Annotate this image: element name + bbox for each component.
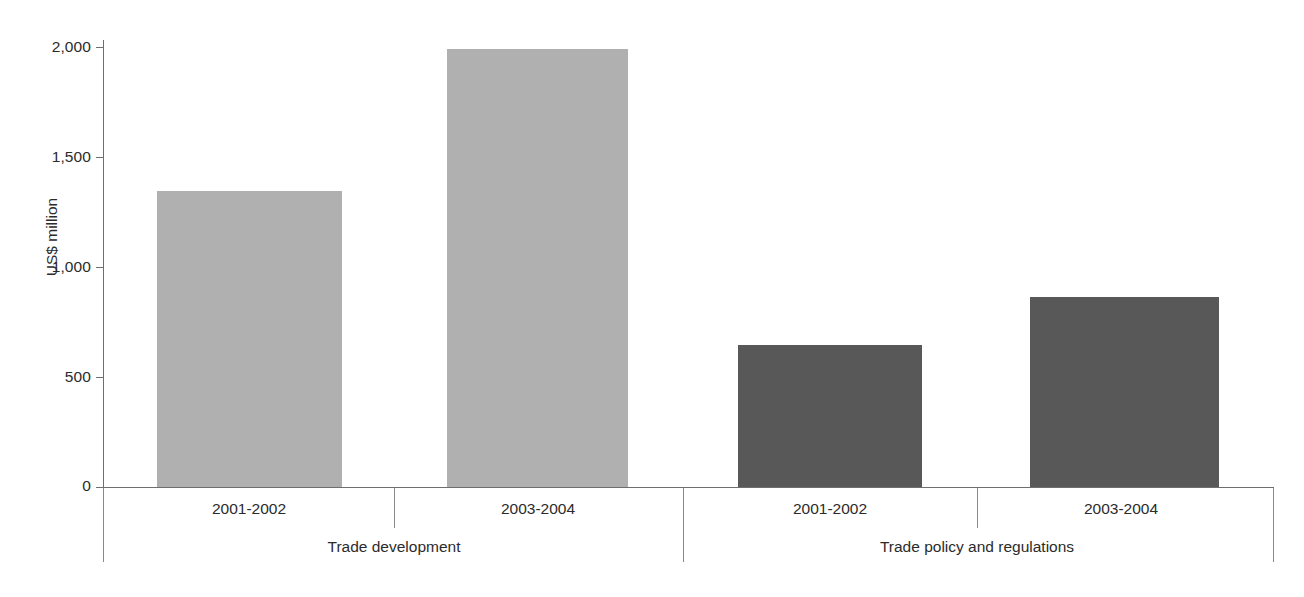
bar-trade-development-2003-2004 — [447, 49, 628, 487]
period-label-trade-development-2003-2004: 2003-2004 — [501, 500, 575, 518]
y-tick-label-0: 0 — [82, 477, 91, 495]
group-label-trade-development: Trade development — [328, 538, 461, 556]
y-tick-label-1500: 1,500 — [52, 148, 91, 166]
bar-chart: US$ million 2,000 1,500 1,000 500 0 2001… — [0, 0, 1304, 597]
x-tick-axis-start — [103, 488, 104, 562]
x-tick-divider-1 — [394, 488, 395, 528]
group-label-trade-policy: Trade policy and regulations — [880, 538, 1074, 556]
bar-trade-policy-2003-2004 — [1030, 297, 1219, 487]
y-tick-mark-1000 — [96, 267, 103, 268]
y-axis-title: US$ million — [43, 177, 61, 297]
y-tick-label-1000: 1,000 — [52, 258, 91, 276]
x-tick-divider-2 — [977, 488, 978, 528]
x-tick-axis-end — [1273, 488, 1274, 562]
bar-trade-development-2001-2002 — [157, 191, 342, 487]
period-label-trade-development-2001-2002: 2001-2002 — [212, 500, 286, 518]
y-tick-mark-0 — [96, 487, 103, 488]
y-tick-label-500: 500 — [65, 368, 91, 386]
y-tick-label-2000: 2,000 — [52, 38, 91, 56]
y-tick-mark-500 — [96, 377, 103, 378]
bar-trade-policy-2001-2002 — [738, 345, 922, 487]
plot-area — [103, 47, 1273, 487]
y-tick-mark-1500 — [96, 157, 103, 158]
period-label-trade-policy-2001-2002: 2001-2002 — [793, 500, 867, 518]
x-axis-line — [103, 487, 1274, 488]
y-tick-mark-2000 — [96, 47, 103, 48]
period-label-trade-policy-2003-2004: 2003-2004 — [1084, 500, 1158, 518]
x-tick-group-divider — [683, 488, 684, 562]
